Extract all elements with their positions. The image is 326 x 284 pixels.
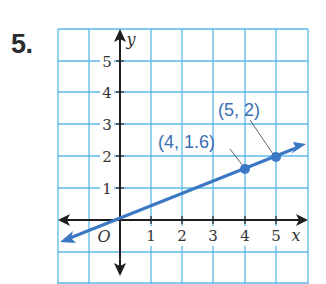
x-tick-2: 2 xyxy=(177,227,187,245)
origin-label: O xyxy=(97,227,110,246)
y-tick-4: 4 xyxy=(102,84,112,102)
y-tick-5: 5 xyxy=(102,53,112,71)
point-label-5-2: (5, 2) xyxy=(218,100,260,120)
point-4-1.6 xyxy=(240,164,250,174)
coordinate-plane: 5 4 3 2 1 1 2 3 4 5 x y O (4, 1.6) (5, 2… xyxy=(0,0,326,284)
y-axis xyxy=(114,29,126,276)
x-tick-1: 1 xyxy=(146,227,156,245)
point-5-2 xyxy=(271,152,281,162)
x-tick-4: 4 xyxy=(240,227,250,245)
x-axis xyxy=(58,214,308,226)
x-tick-5: 5 xyxy=(271,227,281,245)
y-tick-2: 2 xyxy=(102,148,112,166)
y-tick-3: 3 xyxy=(102,116,112,134)
y-axis-label: y xyxy=(125,30,136,49)
point-label-4-1.6: (4, 1.6) xyxy=(158,132,215,152)
x-axis-label: x xyxy=(291,226,300,245)
y-tick-1: 1 xyxy=(102,180,112,198)
x-tick-3: 3 xyxy=(208,227,218,245)
